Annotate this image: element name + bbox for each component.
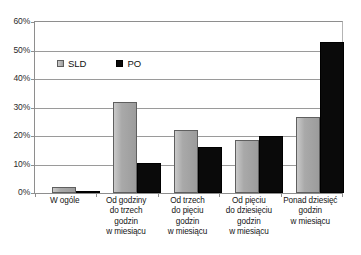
- x-category-line: godzin: [95, 217, 156, 227]
- legend-label-po: PO: [127, 58, 141, 69]
- bar-sld-0: [52, 187, 76, 193]
- x-category-line: w miesiącu: [157, 227, 218, 237]
- x-category-line: w miesiącu: [280, 217, 341, 227]
- x-category-line: do dziesięciu: [218, 206, 279, 216]
- x-category-line: godzin: [157, 217, 218, 227]
- x-category-line: w miesiącu: [95, 227, 156, 237]
- x-category-line: do pięciu: [157, 206, 218, 216]
- x-category-line: w miesiącu: [218, 227, 279, 237]
- bar-po-1: [137, 163, 161, 193]
- bar-sld-2: [174, 130, 198, 193]
- bar-sld-3: [235, 140, 259, 193]
- x-category-label-4: Ponad dziesięć godzin w miesiącu: [280, 196, 341, 227]
- y-axis: 60% 50% 40% 30% 20% 10% 0%: [0, 0, 30, 255]
- y-tick-label: 10%: [0, 159, 30, 168]
- bar-po-2: [198, 147, 222, 193]
- bar-po-3: [259, 136, 283, 193]
- x-category-line: godzin: [280, 206, 341, 216]
- legend-label-sld: SLD: [68, 58, 86, 69]
- legend-item-po: PO: [116, 58, 141, 69]
- bar-chart: 60% 50% 40% 30% 20% 10% 0%: [0, 0, 361, 255]
- x-category-line: Od trzech: [157, 196, 218, 206]
- bar-sld-4: [296, 117, 320, 193]
- x-category-label-3: Od pięciu do dziesięciu godzin w miesiąc…: [218, 196, 279, 238]
- legend-swatch-po: [116, 60, 123, 67]
- y-tick-label: 40%: [0, 74, 30, 83]
- bar-sld-1: [113, 102, 137, 193]
- x-category-line: W ogóle: [34, 196, 95, 206]
- bars-layer: [35, 22, 342, 193]
- x-category-line: godzin: [218, 217, 279, 227]
- x-category-label-1: Od godziny do trzech godzin w miesiącu: [95, 196, 156, 238]
- legend: SLD PO: [57, 58, 141, 69]
- legend-item-sld: SLD: [57, 58, 86, 69]
- y-tick-label: 60%: [0, 17, 30, 26]
- x-category-line: Od pięciu: [218, 196, 279, 206]
- x-category-line: do trzech: [95, 206, 156, 216]
- x-category-line: Ponad dziesięć: [280, 196, 341, 206]
- y-tick-label: 0%: [0, 188, 30, 197]
- x-tick-mark: [342, 193, 343, 197]
- legend-swatch-sld: [57, 60, 64, 67]
- y-tick-label: 20%: [0, 131, 30, 140]
- x-category-label-2: Od trzech do pięciu godzin w miesiącu: [157, 196, 218, 238]
- x-category-line: Od godziny: [95, 196, 156, 206]
- plot-area: SLD PO: [34, 21, 343, 194]
- y-tick-label: 30%: [0, 102, 30, 111]
- y-tick-label: 50%: [0, 45, 30, 54]
- x-axis: W ogóle Od godziny do trzech godzin w mi…: [34, 196, 341, 252]
- bar-po-4: [320, 42, 344, 193]
- x-category-label-0: W ogóle: [34, 196, 95, 206]
